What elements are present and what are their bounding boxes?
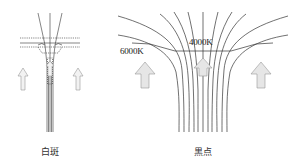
sunspot-upflow-arrow-right — [251, 62, 271, 88]
temperature-label-inside: 4000K — [189, 37, 213, 47]
sunspot-upflow-arrow-center — [194, 58, 212, 76]
faculae-upflow-arrow-left — [18, 68, 28, 90]
temperature-label-outside: 6000K — [120, 46, 144, 56]
faculae-upflow-arrow-right — [73, 68, 83, 90]
sunspot-caption: 黒点 — [194, 145, 212, 158]
faculae-caption: 白斑 — [41, 145, 59, 158]
sunspot-upflow-arrow-left — [135, 62, 155, 88]
diagram-canvas — [0, 0, 302, 164]
